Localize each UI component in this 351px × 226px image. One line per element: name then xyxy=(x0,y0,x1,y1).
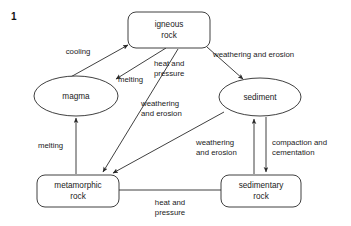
node-label-magma: magma xyxy=(62,92,90,101)
edge-sediment-to-metamorphic: weathering and erosion xyxy=(113,99,224,173)
node-label-sedimentary-rock-line2: rock xyxy=(253,192,269,201)
edge-label-melting-metamorphic: melting xyxy=(38,141,63,150)
edge-sedimentary-to-sediment: weathering and erosion xyxy=(195,119,254,174)
node-sedimentary-rock[interactable]: sedimentary rock xyxy=(221,175,301,207)
edge-label-heat-pressure-lower-line1: heat and xyxy=(155,198,185,207)
node-label-metamorphic-rock-line2: rock xyxy=(70,192,86,201)
edge-label-cooling: cooling xyxy=(66,47,91,56)
node-shape-sedimentary-rock xyxy=(221,175,301,207)
edge-label-heat-pressure-upper-line2: pressure xyxy=(154,69,184,78)
node-sediment[interactable]: sediment xyxy=(219,78,301,116)
node-metamorphic-rock[interactable]: metamorphic rock xyxy=(37,175,119,207)
edge-label-compaction-line1: compaction and xyxy=(272,138,327,147)
node-label-sediment: sediment xyxy=(243,93,277,102)
edge-metamorphic-to-magma: melting xyxy=(38,118,76,174)
edge-sediment-to-sedimentary: compaction and cementation xyxy=(266,117,327,172)
edge-label-melting-igneous: melting xyxy=(118,75,143,84)
rock-cycle-diagram-canvas: cooling melting weathering and erosion h… xyxy=(0,0,351,226)
edge-igneous-to-sediment: weathering and erosion xyxy=(207,47,294,79)
edge-label-weathering-right-line2: and erosion xyxy=(196,148,237,157)
node-shape-metamorphic-rock xyxy=(37,175,119,207)
node-label-igneous-rock-line1: igneous xyxy=(155,20,184,29)
edge-label-weathering-erosion-top: weathering and erosion xyxy=(212,50,294,59)
edge-label-heat-pressure-upper-line1: heat and xyxy=(154,59,184,68)
node-label-igneous-rock-line2: rock xyxy=(161,31,177,40)
edge-label-heat-pressure-lower-line2: pressure xyxy=(155,208,185,217)
node-label-metamorphic-rock-line1: metamorphic xyxy=(54,181,101,190)
node-igneous-rock[interactable]: igneous rock xyxy=(128,12,210,48)
rock-cycle-diagram-figure: 1 cooling melting weathering and erosion… xyxy=(0,0,351,226)
edge-label-weathering-mid-line2: and erosion xyxy=(141,109,182,118)
node-label-sedimentary-rock-line1: sedimentary xyxy=(239,181,285,190)
node-shape-igneous-rock xyxy=(128,12,210,48)
node-magma[interactable]: magma xyxy=(34,76,118,116)
edge-label-weathering-mid-line1: weathering xyxy=(140,99,179,108)
edge-label-weathering-right-line1: weathering xyxy=(195,138,234,147)
edge-metamorphic-sedimentary: heat and pressure xyxy=(119,190,221,217)
edge-label-compaction-line2: cementation xyxy=(272,148,314,157)
